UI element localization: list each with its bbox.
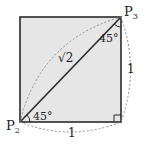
- diagonal-length-label: √2: [58, 51, 73, 65]
- point-p2-label: P2: [6, 118, 20, 135]
- point-p3-label: P3: [124, 4, 138, 21]
- right-side-length-label: 1: [127, 62, 135, 76]
- angle-label-top-right: 45°: [99, 32, 119, 45]
- angle-label-bottom-left: 45°: [33, 110, 53, 123]
- bottom-side-length-label: 1: [68, 126, 76, 140]
- square-diagram: 45° 45° √2 1 1 P2 P3: [0, 0, 145, 144]
